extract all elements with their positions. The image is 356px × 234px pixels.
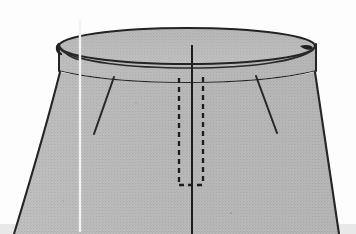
waistband xyxy=(57,28,316,82)
skirt-body xyxy=(14,72,340,234)
skirt-illustration xyxy=(0,0,356,234)
illustration-canvas: Waistband Waistband joining seam Skirt b… xyxy=(0,0,356,234)
